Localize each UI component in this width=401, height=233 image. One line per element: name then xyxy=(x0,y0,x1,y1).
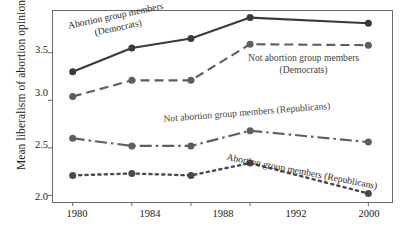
data-point xyxy=(187,172,194,179)
data-point xyxy=(247,127,254,134)
series-line xyxy=(73,131,369,146)
data-point xyxy=(187,35,194,42)
data-point xyxy=(69,68,76,75)
data-point xyxy=(128,142,135,149)
data-point xyxy=(187,142,194,149)
data-point xyxy=(365,139,372,146)
data-point xyxy=(128,77,135,84)
annotation-line-1: Not abortion group members xyxy=(248,52,359,64)
data-point xyxy=(247,14,254,21)
data-point xyxy=(365,20,372,27)
data-point xyxy=(365,42,372,49)
data-point xyxy=(247,41,254,48)
data-point xyxy=(128,45,135,52)
data-point xyxy=(69,135,76,142)
annotation-line-2: (Democrats) xyxy=(248,64,359,76)
chart-figure: Mean liberalism of abortion opinion 3.5 … xyxy=(0,0,401,233)
data-point xyxy=(69,172,76,179)
series-3 xyxy=(69,127,372,149)
data-point xyxy=(69,93,76,100)
data-point xyxy=(128,170,135,177)
data-point xyxy=(365,190,372,197)
annotation-not-abortion-group-democrats: Not abortion group members (Democrats) xyxy=(248,52,359,75)
data-point xyxy=(187,77,194,84)
